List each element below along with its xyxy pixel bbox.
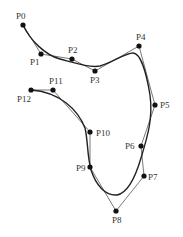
- control-point-p5: [152, 102, 157, 107]
- control-point-label: P12: [17, 94, 31, 104]
- control-points: P0P1P2P3P4P5P6P7P8P9P10P11P12: [16, 11, 170, 225]
- control-point-p6: [138, 143, 143, 148]
- control-point-p10: [87, 129, 92, 134]
- control-point-label: P5: [160, 100, 170, 110]
- diagram-canvas: P0P1P2P3P4P5P6P7P8P9P10P11P12: [0, 0, 183, 237]
- control-point-label: P2: [68, 45, 78, 55]
- control-point-p9: [87, 164, 92, 169]
- control-point-label: P1: [30, 57, 40, 67]
- control-point-p1: [38, 51, 43, 56]
- control-point-label: P0: [16, 11, 26, 21]
- control-point-p12: [28, 87, 33, 92]
- control-point-p7: [141, 173, 146, 178]
- control-point-p2: [69, 56, 74, 61]
- control-point-label: P9: [76, 163, 86, 173]
- control-point-label: P3: [90, 75, 100, 85]
- control-point-p0: [20, 22, 25, 27]
- control-point-label: P11: [49, 76, 63, 86]
- control-point-p11: [50, 87, 55, 92]
- control-point-p8: [113, 208, 118, 213]
- control-point-label: P4: [136, 32, 146, 42]
- control-point-label: P7: [148, 172, 158, 182]
- control-point-label: P6: [125, 141, 135, 151]
- control-point-p3: [92, 68, 97, 73]
- control-point-label: P10: [96, 128, 111, 138]
- control-point-p4: [136, 43, 141, 48]
- control-point-label: P8: [112, 215, 122, 225]
